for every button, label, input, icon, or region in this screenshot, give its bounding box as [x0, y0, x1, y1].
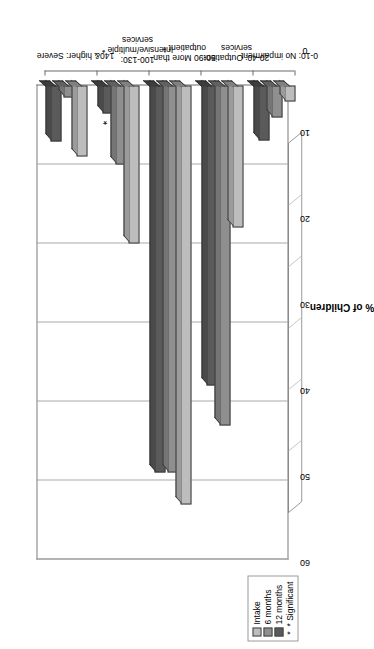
asterisk-icon: * — [285, 629, 294, 636]
bar-50-90-more-than-outpatient-intake — [180, 85, 191, 504]
significance-asterisk-100-130: * — [102, 114, 106, 125]
bar-140-higher-severe-12-months — [50, 85, 61, 141]
gridline-60 — [36, 558, 288, 559]
bar-top-face — [71, 79, 77, 155]
legend-item-significant: * * Significant — [284, 581, 294, 636]
gridline-50 — [36, 479, 288, 480]
bar-top-face — [253, 79, 259, 139]
bar-top-face — [149, 79, 155, 471]
legend-swatch-6-months — [263, 627, 272, 636]
legend-label-12-months: 12 months — [274, 584, 283, 624]
bar-top-face — [45, 79, 51, 140]
legend-label-6-months: 6 months — [263, 589, 272, 624]
category-tick — [44, 70, 45, 75]
bar-top-face — [214, 79, 220, 424]
ytick-40: 40 — [299, 385, 309, 394]
category-tick — [148, 70, 149, 75]
bar-top-face — [227, 79, 233, 226]
category-tick — [252, 70, 253, 75]
ytick-60: 60 — [299, 557, 309, 566]
bar-top-face — [201, 79, 207, 384]
bar-100-130-intensive-intake — [128, 85, 139, 243]
bar-140-higher-severe-intake — [76, 85, 87, 156]
y-axis-title: % of Children — [309, 301, 373, 312]
bar-top-face — [123, 79, 129, 242]
legend-swatch-12-months — [274, 627, 283, 636]
ytick-30: 30 — [299, 299, 309, 308]
category-axis-rail — [44, 70, 294, 71]
bar-20-40-outpatient-intake — [232, 85, 243, 227]
category-label-0-10-no-impairment: 0-10: No impairment — [224, 50, 334, 60]
ytick-20: 20 — [299, 213, 309, 222]
plot-area: * — [36, 84, 288, 559]
ytick-50: 50 — [299, 471, 309, 480]
legend-label-significant: * Significant — [285, 581, 294, 626]
chart-legend: Intake 6 months 12 months * * Significan… — [247, 575, 298, 641]
bar-top-face — [175, 79, 181, 503]
legend-swatch-intake — [252, 627, 261, 636]
legend-item-6-months: 6 months — [262, 581, 272, 636]
legend-label-intake: Intake — [252, 601, 261, 624]
legend-item-intake: Intake — [251, 581, 261, 636]
category-line: 0-10: No impairment — [241, 50, 318, 60]
category-tick — [200, 70, 201, 75]
legend-item-12-months: 12 months — [273, 581, 283, 636]
bar-0-10-no-impairment-intake — [284, 85, 295, 101]
bar-top-face — [110, 79, 116, 163]
ytick-10: 10 — [299, 127, 309, 136]
category-tick — [96, 70, 97, 75]
bar-top-face — [162, 79, 168, 471]
plot-floor — [288, 84, 302, 559]
category-tick — [294, 70, 295, 75]
